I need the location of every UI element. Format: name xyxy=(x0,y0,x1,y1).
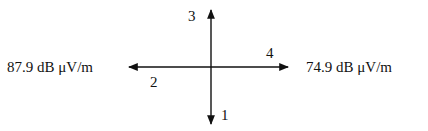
arrow-label-4: 4 xyxy=(266,46,274,61)
left-field-strength-label: 87.9 dB μV/m xyxy=(7,60,93,75)
arrow-label-2: 2 xyxy=(150,75,158,90)
arrow-label-3: 3 xyxy=(188,9,196,24)
arrow-label-1: 1 xyxy=(221,108,229,123)
right-field-strength-label: 74.9 dB μV/m xyxy=(306,60,392,75)
